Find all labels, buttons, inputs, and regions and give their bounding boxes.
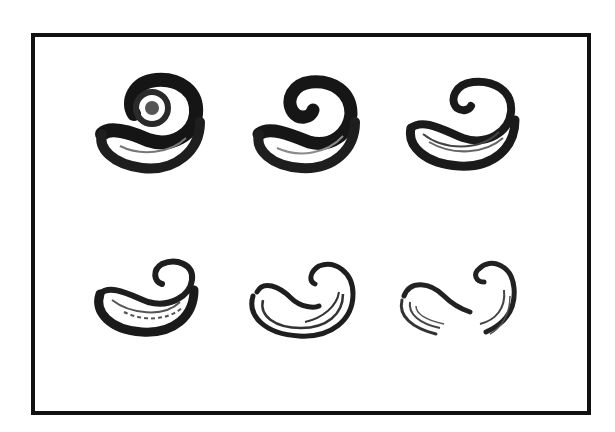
spiral-figure-1 <box>101 80 200 169</box>
spiral-figure-5 <box>252 264 353 336</box>
spiral-figure-6 <box>401 263 514 334</box>
spiral-figure-4 <box>99 262 194 332</box>
spiral-figure-3 <box>410 82 515 166</box>
spiral-figure-2 <box>258 82 355 168</box>
spiral-figures <box>0 0 615 432</box>
